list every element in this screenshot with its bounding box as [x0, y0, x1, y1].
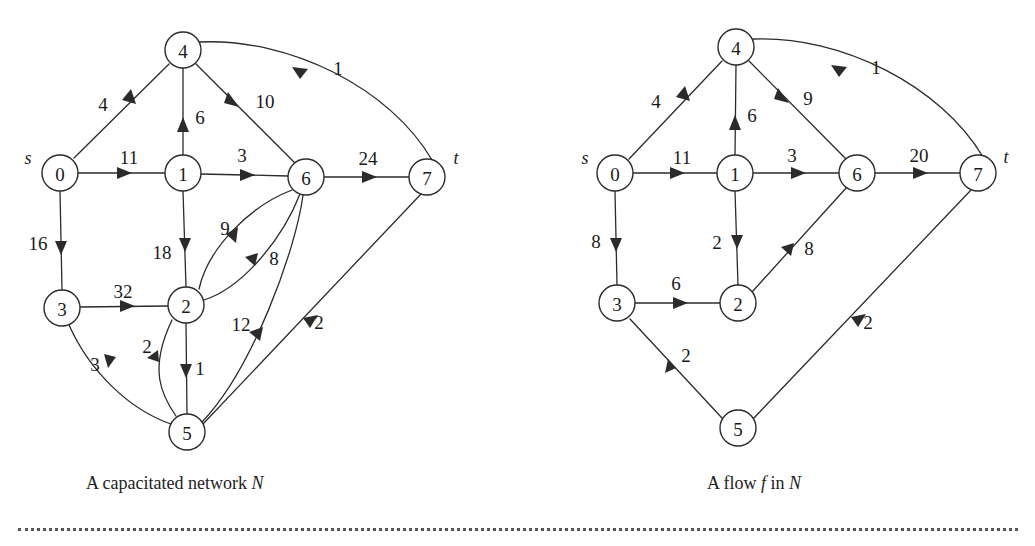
edge-0-4: [74, 64, 169, 158]
edge-label-4-6: 9: [803, 88, 813, 109]
right-edges: [610, 39, 983, 419]
arrow-5-3: [104, 354, 116, 368]
arrow-1-6: [791, 167, 806, 179]
edge-label-5-7: 2: [863, 312, 873, 333]
edge-2-6: [752, 187, 847, 292]
node-label: 1: [730, 164, 740, 185]
node-label: 0: [610, 164, 620, 185]
edge-3-5: [630, 319, 722, 418]
right-node-7[interactable]: 7: [960, 155, 996, 191]
node-label: 0: [55, 164, 65, 185]
arrow-4-7: [292, 67, 308, 79]
edge-label-1-4: 6: [747, 105, 757, 126]
caption-left-prefix: A capacitated network: [86, 473, 251, 493]
node-label: 5: [733, 419, 743, 440]
left-edges: [55, 42, 432, 424]
arrow-0-3: [55, 241, 67, 255]
sink-marker-left: t: [453, 148, 459, 168]
right-node-4[interactable]: 4: [718, 29, 754, 65]
arrow-1-2: [179, 238, 191, 252]
sink-marker-right: t: [1003, 147, 1009, 167]
arrow-3-2: [120, 300, 135, 312]
arrow-2-6: [781, 243, 794, 256]
edge-label-6-7: 20: [910, 145, 929, 166]
edge-label-1-4: 6: [195, 107, 205, 128]
figure-root: s t 0 1 2 3 4: [0, 0, 1035, 546]
right-node-1[interactable]: 1: [717, 155, 753, 191]
edge-1-4: [735, 65, 736, 155]
node-label: 2: [733, 294, 743, 315]
edge-label-3-2: 32: [114, 281, 133, 302]
edge-label-5-2: 2: [142, 336, 152, 357]
arrow-0-3: [610, 238, 622, 252]
arrow-3-2: [673, 297, 688, 309]
left-panel-group: s t 0 1 2 3 4: [24, 32, 459, 450]
node-label: 4: [731, 38, 741, 59]
node-label: 3: [57, 299, 67, 320]
edge-0-3: [60, 191, 62, 290]
arrow-6-7: [913, 167, 928, 179]
edge-label-1-2: 2: [712, 232, 722, 253]
caption-right-middle: in: [766, 473, 789, 493]
source-marker-right: s: [581, 148, 588, 168]
arrow-4-7: [831, 65, 847, 77]
edge-label-0-4: 4: [651, 91, 661, 112]
edge-4-7: [753, 39, 983, 157]
left-node-0[interactable]: 0: [42, 155, 78, 191]
caption-left-symbol: N: [251, 473, 263, 493]
edge-label-0-3: 16: [29, 233, 48, 254]
edge-label-0-3: 8: [591, 231, 601, 252]
caption-right-panel: A flow f in N: [707, 473, 801, 494]
node-label: 7: [422, 168, 432, 189]
left-node-3[interactable]: 3: [44, 290, 80, 326]
edge-label-2-6: 8: [804, 238, 814, 259]
node-label: 2: [181, 296, 191, 317]
edge-label-0-1: 11: [120, 147, 138, 168]
network-diagram-canvas: s t 0 1 2 3 4: [0, 0, 1035, 546]
right-panel-group: s t 0 1 2 3 4: [581, 29, 1009, 446]
left-node-1[interactable]: 1: [165, 155, 201, 191]
edge-label-0-1: 11: [673, 147, 691, 168]
node-label: 1: [178, 164, 188, 185]
right-node-6[interactable]: 6: [839, 155, 875, 191]
right-node-0[interactable]: 0: [597, 155, 633, 191]
edge-label-5-7: 2: [314, 312, 324, 333]
arrow-1-6: [240, 169, 255, 181]
edge-label-1-2: 18: [153, 242, 172, 263]
edge-4-6: [749, 61, 846, 159]
edge-4-7: [200, 42, 432, 160]
left-node-6[interactable]: 6: [288, 159, 324, 195]
right-node-5[interactable]: 5: [720, 410, 756, 446]
edge-5-7: [753, 190, 971, 419]
arrow-0-4: [676, 86, 690, 101]
edge-label-4-7: 1: [871, 57, 881, 78]
edge-5-3: [69, 325, 171, 424]
arrow-1-4: [729, 115, 741, 130]
edge-label-1-6: 3: [237, 145, 247, 166]
edge-label-6-2: 9: [220, 218, 230, 239]
left-node-4[interactable]: 4: [165, 32, 201, 68]
edge-label-1-6: 3: [787, 145, 797, 166]
node-label: 3: [612, 294, 622, 315]
edge-label-3-2: 6: [671, 273, 681, 294]
edge-label-4-7: 1: [333, 58, 343, 79]
node-label: 7: [973, 164, 983, 185]
node-label: 6: [301, 168, 311, 189]
left-node-7[interactable]: 7: [409, 159, 445, 195]
right-node-2[interactable]: 2: [720, 285, 756, 321]
edge-label-2-6: 8: [269, 248, 279, 269]
edge-label-6-5: 12: [232, 314, 251, 335]
edge-5-2: [159, 320, 176, 416]
arrow-0-1: [117, 167, 132, 179]
edge-label-6-7: 24: [359, 148, 379, 169]
right-node-3[interactable]: 3: [599, 285, 635, 321]
left-node-5[interactable]: 5: [169, 414, 205, 450]
arrow-6-7: [362, 171, 377, 183]
edge-label-2-5: 1: [195, 358, 205, 379]
edge-6-5: [202, 195, 303, 422]
left-node-2[interactable]: 2: [168, 287, 204, 323]
caption-right-symbol-n: N: [789, 473, 801, 493]
footer-dotted-rule: [18, 528, 1018, 534]
edge-label-4-6: 10: [256, 91, 275, 112]
caption-right-prefix: A flow: [707, 473, 761, 493]
